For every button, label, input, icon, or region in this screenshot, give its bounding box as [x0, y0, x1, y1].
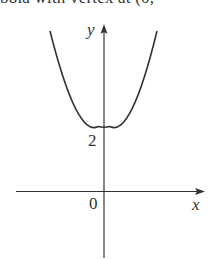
x-axis-label: x	[192, 195, 200, 215]
y-intercept-label: 2	[88, 131, 97, 151]
y-axis-label: y	[87, 20, 95, 40]
origin-label: 0	[89, 194, 98, 214]
parabola-chart	[0, 0, 215, 260]
